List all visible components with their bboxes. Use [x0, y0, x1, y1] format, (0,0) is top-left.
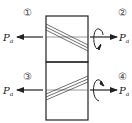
marker-4: ④: [118, 71, 127, 82]
marker-3: ③: [23, 71, 32, 82]
top-helix-lines: [46, 24, 88, 51]
force-label-3: Pa: [2, 85, 14, 97]
marker-1: ①: [23, 7, 32, 18]
helical-gear-diagram: ① ② ③ ④ Pa Pa Pa Pa: [0, 0, 132, 123]
force-label-1: Pa: [2, 32, 14, 44]
bottom-helix-lines: [46, 76, 88, 100]
force-label-2: Pa: [118, 32, 130, 44]
force-label-4: Pa: [118, 85, 130, 97]
marker-2: ②: [118, 7, 127, 18]
gear-stack: [46, 16, 88, 120]
rotation-arrow-2-icon: [94, 29, 103, 50]
top-gear-body: [46, 16, 88, 62]
